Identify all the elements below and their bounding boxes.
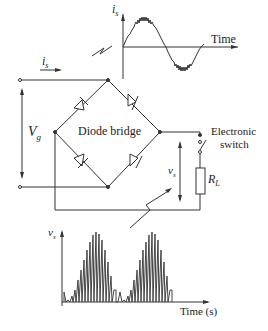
input-current-label: is — [42, 54, 48, 70]
load-label: RL — [208, 172, 220, 188]
bridge-label: Diode bridge — [78, 124, 141, 139]
bottom-plot-x-label: Time (s) — [180, 305, 217, 317]
bottom-plot-y-label: vs — [48, 226, 56, 241]
switch-label-1: Electronic — [211, 125, 256, 137]
output-voltage-waveform — [64, 232, 172, 302]
top-plot-y-label: is — [112, 2, 118, 18]
diode-2 — [128, 94, 138, 110]
top-plot-x-label: Time — [211, 32, 236, 47]
diode-3 — [74, 154, 88, 168]
input-current-waveform — [123, 17, 204, 71]
circuit-diagram — [0, 0, 268, 331]
current-annotation-line — [92, 46, 112, 56]
output-annotation-line — [130, 190, 170, 228]
diode-4 — [130, 154, 142, 168]
load-resistor — [196, 168, 205, 194]
switch-label-2: switch — [220, 138, 249, 150]
output-voltage-label: vs — [168, 164, 176, 179]
diode-1 — [74, 97, 88, 110]
source-voltage-label: Vg — [28, 124, 41, 142]
